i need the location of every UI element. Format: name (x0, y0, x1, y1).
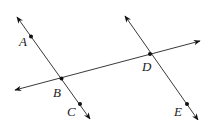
geometry-diagram: A B C D E (0, 0, 218, 130)
label-c: C (67, 104, 76, 119)
point-d (148, 52, 152, 56)
label-d: D (141, 59, 152, 74)
point-e (185, 102, 189, 106)
label-b: B (53, 85, 61, 100)
point-b (60, 77, 64, 81)
point-c (78, 102, 82, 106)
label-e: E (173, 104, 182, 119)
point-a (29, 35, 33, 39)
label-a: A (18, 34, 27, 49)
